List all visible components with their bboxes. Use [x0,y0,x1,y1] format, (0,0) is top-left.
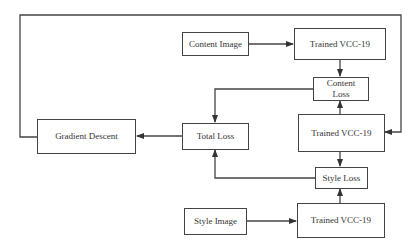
content-loss-label: Content Loss [327,78,356,100]
total-loss-label: Total Loss [197,131,235,142]
style-image-box: Style Image [184,208,247,235]
vgg-generated-box: Trained VCC-19 [298,114,385,152]
vgg-content-label: Trained VCC-19 [310,39,370,50]
vgg-content-box: Trained VCC-19 [294,28,386,60]
content-image-box: Content Image [182,32,249,56]
gradient-descent-box: Gradient Descent [37,119,136,154]
content-image-label: Content Image [189,39,242,50]
style-loss-box: Style Loss [315,167,368,189]
vgg-generated-label: Trained VCC-19 [311,128,371,139]
arrow-style-loss-to-total-loss [215,150,315,178]
vgg-style-label: Trained VCC-19 [311,215,371,226]
style-image-label: Style Image [194,216,237,227]
style-loss-label: Style Loss [323,173,361,184]
vgg-style-box: Trained VCC-19 [297,203,385,238]
total-loss-box: Total Loss [182,123,249,150]
gradient-descent-label: Gradient Descent [55,131,118,142]
content-loss-box: Content Loss [313,77,369,101]
